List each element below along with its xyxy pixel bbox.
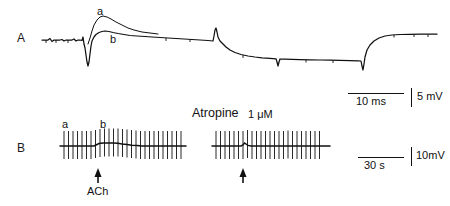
panel-b-time-scalebar-label: 30 s	[364, 159, 385, 171]
ach-stimulus-label: ACh	[87, 185, 108, 197]
panel-b-segment2-pulses	[216, 130, 320, 159]
panel-b-voltage-scalebar	[411, 147, 412, 166]
ach-arrow-marker-2	[240, 168, 247, 183]
ach-arrow-marker-1	[95, 168, 102, 183]
panel-b-voltage-scalebar-label: 10mV	[416, 149, 445, 161]
panel-b-time-scalebar	[358, 157, 404, 158]
panel-b-traces	[0, 0, 450, 206]
electrophysiology-figure: A a b 10 ms 5 mV Atropine 1 μM B a b	[0, 0, 450, 206]
